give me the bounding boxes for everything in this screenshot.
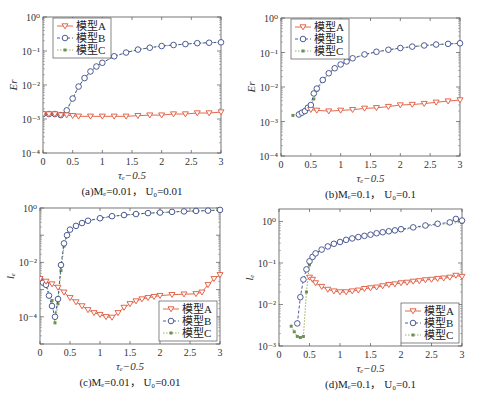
circle-marker xyxy=(300,36,306,42)
x-tick-label: 3 xyxy=(458,159,463,170)
dot-marker xyxy=(302,50,305,53)
circle-marker xyxy=(79,220,85,226)
circle-marker xyxy=(374,49,380,55)
circle-marker xyxy=(445,41,451,47)
triangle-marker xyxy=(319,284,325,289)
x-tick-label: 0 xyxy=(279,159,284,170)
circle-marker xyxy=(157,210,163,216)
figure-canvas: 00.511.522.5310⁻⁴10⁻³10⁻²10⁻¹10⁰τₑ−0.5Er… xyxy=(0,0,477,400)
legend-label: 模型B xyxy=(424,316,453,329)
circle-marker xyxy=(61,241,67,247)
x-axis-label: τₑ−0.5 xyxy=(357,172,385,184)
circle-marker xyxy=(64,108,70,114)
x-tick-label: 2.5 xyxy=(184,347,197,358)
x-axis-label: τₑ−0.5 xyxy=(116,360,144,372)
triangle-marker xyxy=(217,273,223,278)
circle-marker xyxy=(332,65,338,71)
circle-marker xyxy=(181,209,187,215)
series-a xyxy=(308,98,463,114)
x-tick-label: 1 xyxy=(338,159,343,170)
circle-marker xyxy=(133,211,139,217)
triangle-marker xyxy=(109,315,115,320)
x-tick-label: 0.5 xyxy=(64,347,77,358)
x-tick-label: 2 xyxy=(158,347,163,358)
x-tick-label: 1 xyxy=(100,156,105,167)
circle-marker xyxy=(410,320,416,326)
circle-marker xyxy=(159,43,165,49)
triangle-marker xyxy=(127,302,133,307)
circle-marker xyxy=(147,45,153,51)
legend-label: 模型A xyxy=(182,302,212,315)
dot-marker xyxy=(290,325,293,328)
x-tick-label: 3 xyxy=(460,349,465,360)
y-tick-label: 10⁻⁴ xyxy=(21,148,40,159)
circle-marker xyxy=(325,244,331,250)
x-axis-label: τₑ−0.5 xyxy=(357,362,385,374)
circle-marker xyxy=(326,70,332,76)
circle-marker xyxy=(308,102,314,108)
y-tick-label: 10⁻⁴ xyxy=(259,151,278,162)
circle-marker xyxy=(52,314,58,320)
subplot-a: 00.511.522.5310⁻⁴10⁻³10⁻²10⁻¹10⁰τₑ−0.5Er… xyxy=(7,12,224,198)
circle-marker xyxy=(62,35,68,41)
circle-marker xyxy=(362,233,368,239)
circle-marker xyxy=(350,55,356,61)
circle-marker xyxy=(49,303,55,309)
legend: 模型A模型B模型C xyxy=(291,19,349,59)
circle-marker xyxy=(362,52,368,58)
circle-marker xyxy=(123,50,129,56)
circle-marker xyxy=(313,251,319,257)
subplot-b: 00.511.522.5310⁻⁴10⁻³10⁻²10⁻¹10⁰τₑ−0.5Er… xyxy=(245,13,463,201)
circle-marker xyxy=(205,208,211,214)
triangle-marker xyxy=(49,282,55,287)
y-tick-label: 10⁰ xyxy=(262,216,276,227)
circle-marker xyxy=(435,221,441,227)
y-tick-label: 10⁻² xyxy=(19,257,37,268)
x-tick-label: 1.5 xyxy=(364,349,377,360)
circle-marker xyxy=(386,47,392,53)
circle-marker xyxy=(135,47,141,53)
y-tick-label: 10⁻³ xyxy=(22,114,40,125)
legend-label: 模型C xyxy=(182,326,211,339)
circle-marker xyxy=(380,229,386,235)
x-tick-label: 0.5 xyxy=(305,159,318,170)
x-tick-label: 1 xyxy=(338,349,343,360)
legend: 模型A模型B模型C xyxy=(159,301,217,341)
circle-marker xyxy=(46,293,52,299)
subplot-c: 00.511.522.5310⁻⁴10⁻²10⁰τₑ−0.5lₑ(c)Mₑ=0.… xyxy=(4,203,223,389)
dot-marker xyxy=(54,321,57,324)
circle-marker xyxy=(82,75,88,81)
circle-marker xyxy=(183,41,189,47)
triangle-marker xyxy=(79,304,85,309)
legend-label: 模型B xyxy=(314,32,343,45)
x-tick-label: 0.5 xyxy=(303,349,316,360)
circle-marker xyxy=(301,277,307,283)
subplot-caption: (a)Mₑ=0.01， U₀=0.01 xyxy=(81,185,182,198)
dot-marker xyxy=(291,114,294,117)
y-tick-label: 10⁻¹ xyxy=(22,46,40,57)
circle-marker xyxy=(374,230,380,236)
circle-marker xyxy=(386,228,392,234)
legend-label: 模型B xyxy=(76,31,105,44)
subplot-d: 00.511.522.5310⁻³10⁻²10⁻¹10⁰τₑ−0.5lₑ(d)M… xyxy=(243,209,465,391)
circle-marker xyxy=(423,223,429,229)
x-tick-label: 1.5 xyxy=(364,159,377,170)
legend-label: 模型A xyxy=(314,20,344,33)
circle-marker xyxy=(320,77,326,83)
circle-marker xyxy=(88,69,94,75)
circle-marker xyxy=(70,96,76,102)
legend-label: 模型C xyxy=(76,43,105,56)
x-tick-label: 0 xyxy=(41,156,46,167)
circle-marker xyxy=(97,215,103,221)
legend: 模型A模型B模型C xyxy=(401,303,459,343)
circle-marker xyxy=(459,218,465,224)
y-tick-label: 10⁰ xyxy=(264,13,278,24)
circle-marker xyxy=(55,296,61,302)
legend-label: 模型A xyxy=(76,19,106,32)
circle-marker xyxy=(193,208,199,214)
y-tick-label: 10⁻⁴ xyxy=(18,312,37,323)
dot-marker xyxy=(412,334,415,337)
x-tick-label: 1.5 xyxy=(124,347,137,358)
dot-marker xyxy=(64,49,67,52)
circle-marker xyxy=(392,228,398,234)
